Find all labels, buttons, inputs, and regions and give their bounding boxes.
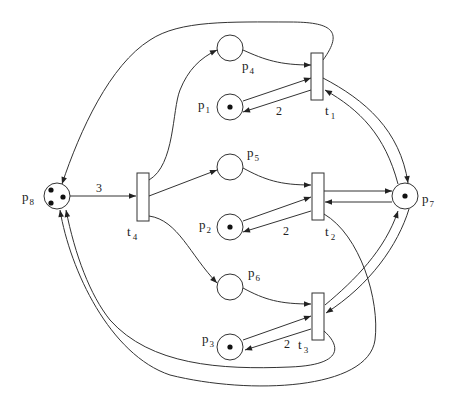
label-p5: p5 <box>247 145 260 163</box>
arcs <box>60 22 409 386</box>
arc-t4-p4 <box>149 50 217 180</box>
label-t3: t3 <box>298 337 309 355</box>
arc-p1-t1 <box>243 78 311 101</box>
label-p6: p6 <box>248 265 261 283</box>
arc-p6-t3 <box>243 288 311 304</box>
label-p3: p3 <box>202 331 215 349</box>
place-p6[interactable] <box>217 274 243 300</box>
arc-p4-t1 <box>243 50 311 65</box>
arc-t2-p2 <box>243 211 311 232</box>
token <box>402 193 407 198</box>
token <box>227 104 232 109</box>
label-p1: p1 <box>198 97 210 115</box>
weight-p8-t4: 3 <box>96 181 102 195</box>
arc-t4-p5 <box>149 170 217 196</box>
token <box>48 200 53 205</box>
token <box>60 194 65 199</box>
place-p2[interactable] <box>217 214 243 240</box>
arc-p2-t2 <box>243 197 311 221</box>
weight-t1-p1: 2 <box>276 104 282 118</box>
label-p4: p4 <box>242 58 255 76</box>
arc-t3-p8 <box>66 210 335 368</box>
transition-t1[interactable] <box>311 53 323 100</box>
token <box>227 344 232 349</box>
transition-t2[interactable] <box>312 173 324 220</box>
arc-p5-t2 <box>243 168 311 185</box>
place-p5[interactable] <box>217 154 243 180</box>
place-p7[interactable] <box>392 183 418 209</box>
place-p8[interactable] <box>44 183 70 209</box>
transition-t3[interactable] <box>312 293 324 340</box>
petri-net-diagram: p4 p1 t1 p5 p2 t2 p6 p3 t3 p7 p8 t4 3 2 … <box>0 0 453 406</box>
token <box>227 224 232 229</box>
arc-t1-p7 <box>323 78 408 183</box>
transition-t4[interactable] <box>137 173 149 221</box>
place-p3[interactable] <box>217 334 243 360</box>
label-t1: t1 <box>325 103 335 121</box>
weight-t3-p3: 2 <box>284 337 290 351</box>
token <box>48 187 53 192</box>
places <box>44 35 418 360</box>
label-p8: p8 <box>22 189 35 207</box>
label-t2: t2 <box>325 224 335 242</box>
label-t4: t4 <box>127 224 138 242</box>
label-p2: p2 <box>199 217 211 235</box>
weight-t2-p2: 2 <box>283 224 289 238</box>
arc-p7-t1 <box>325 90 398 184</box>
label-p7: p7 <box>422 191 435 209</box>
place-p4[interactable] <box>217 35 243 61</box>
place-p1[interactable] <box>217 94 243 120</box>
arc-t3-p7 <box>325 211 398 305</box>
